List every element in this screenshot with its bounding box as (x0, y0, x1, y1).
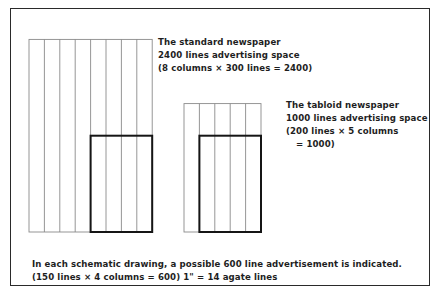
tabloid-line-count: 1000 lines advertising space (286, 112, 428, 125)
tabloid-page-outline (184, 104, 261, 232)
standard-title: The standard newspaper (158, 36, 312, 49)
standard-line-count: 2400 lines advertising space (158, 49, 312, 62)
standard-newspaper-schematic (29, 39, 152, 232)
tabloid-formula-result: = 1000) (286, 138, 428, 151)
tabloid-newspaper-label: The tabloid newspaper 1000 lines adverti… (286, 99, 428, 151)
tabloid-newspaper-schematic (184, 104, 261, 232)
caption-line-2: (150 lines × 4 columns = 600) 1" = 14 ag… (32, 271, 402, 284)
tabloid-title: The tabloid newspaper (286, 99, 428, 112)
tabloid-formula: (200 lines × 5 columns (286, 125, 428, 138)
standard-formula: (8 columns × 300 lines = 2400) (158, 62, 312, 75)
caption: In each schematic drawing, a possible 60… (32, 258, 402, 284)
standard-newspaper-label: The standard newspaper 2400 lines advert… (158, 36, 312, 75)
caption-line-1: In each schematic drawing, a possible 60… (32, 258, 402, 271)
